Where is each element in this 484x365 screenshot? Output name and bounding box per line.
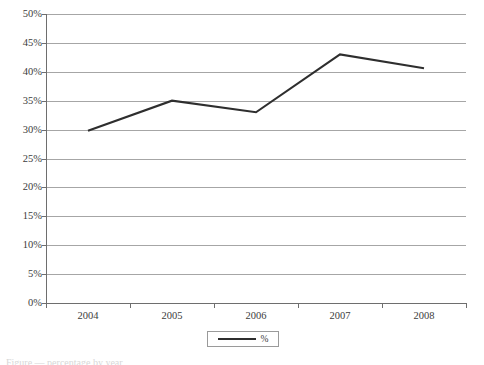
legend-label: % <box>261 334 269 344</box>
y-axis-tick <box>42 14 46 15</box>
y-axis-tick <box>42 101 46 102</box>
y-axis-tick <box>42 130 46 131</box>
y-axis-tick <box>42 216 46 217</box>
y-axis-tick <box>42 274 46 275</box>
y-axis-tick <box>42 72 46 73</box>
y-axis-tick <box>42 159 46 160</box>
y-axis-tick <box>42 303 46 304</box>
series-line-group <box>0 0 484 365</box>
line-chart-figure: 0%5%10%15%20%25%30%35%40%45%50% 20042005… <box>0 0 484 365</box>
figure-caption: Figure — percentage by year <box>6 357 476 365</box>
y-axis-tick <box>42 187 46 188</box>
legend-line-swatch <box>218 338 256 340</box>
series-line <box>88 54 424 130</box>
y-axis-tick <box>42 43 46 44</box>
y-axis-tick <box>42 245 46 246</box>
chart-legend: % <box>207 331 279 347</box>
